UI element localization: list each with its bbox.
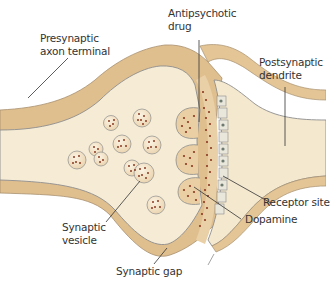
label-synaptic-gap: Synaptic gap: [116, 265, 182, 278]
label-presynaptic-axon-terminal: Presynaptic axon terminal: [40, 32, 110, 58]
label-antipsychotic-drug: Antipsychotic drug: [168, 7, 236, 33]
label-receptor-site: Receptor site: [263, 196, 330, 209]
label-dopamine: Dopamine: [245, 213, 297, 226]
label-synaptic-vesicle: Synaptic vesicle: [62, 221, 106, 247]
label-postsynaptic-dendrite: Postsynaptic dendrite: [259, 56, 323, 82]
leader-presynaptic: [28, 58, 68, 98]
